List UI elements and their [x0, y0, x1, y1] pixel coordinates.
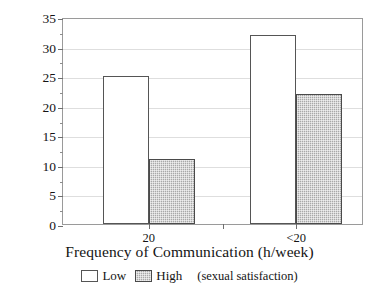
y-tick-mark — [58, 226, 63, 227]
x-tick-mark-mid — [223, 224, 224, 229]
y-tick-mark — [58, 137, 63, 138]
bar-high-1 — [296, 94, 342, 224]
bar-low-0 — [103, 76, 149, 224]
y-tick-label: 10 — [43, 160, 57, 174]
y-tick-mark — [58, 19, 63, 20]
chart-legend: LowHigh(sexual satisfaction) — [0, 269, 379, 283]
legend-label: Low — [102, 269, 126, 283]
y-minor-tick-mark — [60, 63, 63, 64]
bar-chart-figure: % Divorce Possible 05101520253035 20<20 … — [0, 0, 379, 296]
x-tick-mark — [149, 224, 150, 229]
legend-label: High — [156, 269, 182, 283]
legend-swatch-high — [135, 270, 152, 282]
y-minor-tick-mark — [60, 34, 63, 35]
y-tick-mark — [58, 167, 63, 168]
x-tick-mark — [296, 224, 297, 229]
y-minor-tick-mark — [60, 152, 63, 153]
y-tick-mark — [58, 196, 63, 197]
y-tick-mark — [58, 78, 63, 79]
y-minor-tick-mark — [60, 123, 63, 124]
y-tick-label: 0 — [49, 219, 56, 233]
legend-swatch-low — [81, 270, 98, 282]
bar-high-0 — [149, 159, 195, 224]
y-minor-tick-mark — [60, 182, 63, 183]
y-tick-mark — [58, 49, 63, 50]
y-minor-tick-mark — [60, 211, 63, 212]
y-tick-label: 30 — [43, 42, 57, 56]
y-tick-label: 15 — [43, 131, 57, 145]
x-axis-title: Frequency of Communication (h/week) — [0, 243, 379, 261]
legend-entry-high: High — [135, 269, 182, 283]
y-tick-label: 25 — [43, 71, 57, 85]
gridline — [63, 49, 362, 50]
y-tick-label: 5 — [49, 190, 56, 204]
y-tick-label: 20 — [43, 101, 57, 115]
plot-area: 05101520253035 20<20 — [62, 18, 363, 225]
y-tick-label: 35 — [43, 12, 57, 26]
y-minor-tick-mark — [60, 93, 63, 94]
legend-note: (sexual satisfaction) — [197, 269, 297, 283]
y-tick-mark — [58, 108, 63, 109]
legend-entry-low: Low — [81, 269, 126, 283]
bar-low-1 — [250, 35, 296, 224]
